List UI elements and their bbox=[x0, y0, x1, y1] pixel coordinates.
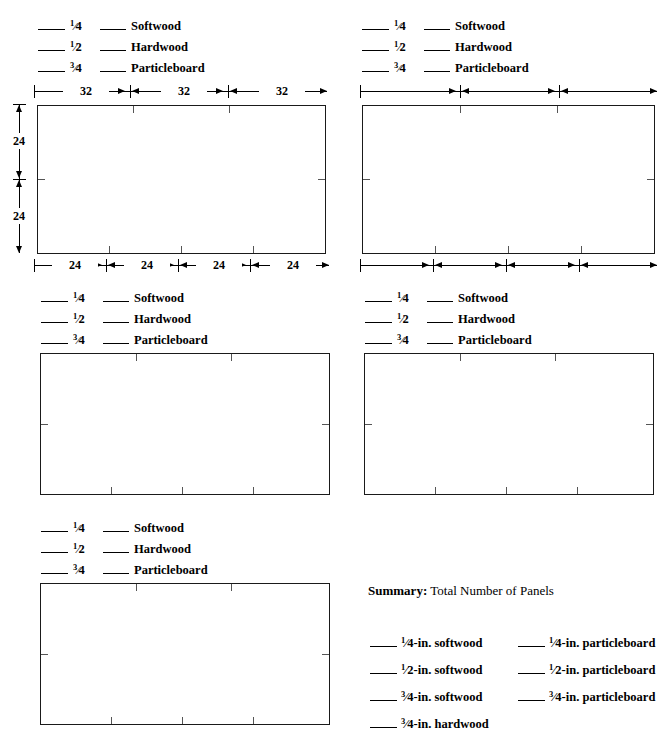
legend-row: 1⁄4 Softwood bbox=[41, 518, 208, 539]
thickness-blank-input[interactable] bbox=[38, 20, 65, 30]
legend-row: 3⁄4 Particleboard bbox=[362, 58, 529, 79]
count-blank-input[interactable] bbox=[370, 664, 397, 674]
dimension-value: 24 bbox=[124, 256, 170, 274]
thickness-blank-input[interactable] bbox=[41, 543, 68, 553]
thickness-blank-input[interactable] bbox=[41, 292, 68, 302]
tick-mark bbox=[581, 246, 582, 253]
tick-mark bbox=[322, 654, 329, 655]
material-blank-input[interactable] bbox=[427, 292, 453, 302]
material-blank-input[interactable] bbox=[427, 313, 453, 323]
dimension-value: 24 bbox=[52, 256, 98, 274]
dimension-value: 32 bbox=[63, 82, 109, 100]
summary-item-label: 1⁄2-in. softwood bbox=[401, 663, 482, 678]
fraction-one-quarter: 1⁄4 bbox=[73, 518, 103, 539]
summary-item-softwood-quarter: 1⁄4-in. softwood bbox=[370, 636, 482, 651]
fraction-one-half: 1⁄2 bbox=[73, 309, 103, 330]
tick-mark bbox=[508, 246, 509, 253]
thickness-blank-input[interactable] bbox=[41, 334, 68, 344]
count-blank-input[interactable] bbox=[370, 691, 397, 701]
material-blank-input[interactable] bbox=[103, 292, 129, 302]
tick-mark bbox=[460, 106, 461, 113]
tick-mark bbox=[136, 584, 137, 591]
count-blank-input[interactable] bbox=[370, 718, 397, 728]
material-blank-input[interactable] bbox=[103, 334, 129, 344]
tick-mark bbox=[555, 354, 556, 361]
fraction-three-quarters: 3⁄4 bbox=[73, 560, 103, 581]
tick-mark bbox=[435, 246, 436, 253]
dimension-value: 24 bbox=[8, 208, 30, 224]
thickness-blank-input[interactable] bbox=[362, 20, 389, 30]
material-blank-input[interactable] bbox=[100, 20, 126, 30]
fraction-one-half: 1⁄2 bbox=[394, 37, 424, 58]
summary-item-softwood-half: 1⁄2-in. softwood bbox=[370, 663, 482, 678]
panel-diagram-1[interactable] bbox=[37, 105, 326, 254]
thickness-blank-input[interactable] bbox=[41, 313, 68, 323]
tick-mark bbox=[41, 424, 48, 425]
summary-title: Summary: Total Number of Panels bbox=[368, 583, 658, 599]
legend-panel-5: 1⁄4 Softwood 1⁄2 Hardwood 3⁄4 Particlebo… bbox=[41, 518, 208, 581]
legend-panel-4: 1⁄4 Softwood 1⁄2 Hardwood 3⁄4 Particlebo… bbox=[365, 288, 532, 351]
tick-mark bbox=[41, 654, 48, 655]
thickness-blank-input[interactable] bbox=[362, 62, 389, 72]
material-blank-input[interactable] bbox=[424, 62, 450, 72]
material-blank-input[interactable] bbox=[103, 522, 129, 532]
dimension-value: 24 bbox=[196, 256, 242, 274]
worksheet-page: 1⁄4 Softwood 1⁄2 Hardwood 3⁄4 Particlebo… bbox=[0, 0, 669, 747]
material-blank-input[interactable] bbox=[103, 313, 129, 323]
panel-diagram-5[interactable] bbox=[40, 583, 330, 725]
summary-item-label: 3⁄4-in. particleboard bbox=[549, 690, 655, 705]
material-label-hardwood: Hardwood bbox=[134, 309, 191, 330]
count-blank-input[interactable] bbox=[518, 664, 545, 674]
summary-item-particleboard-quarter: 1⁄4-in. particleboard bbox=[518, 636, 655, 651]
legend-panel-3: 1⁄4 Softwood 1⁄2 Hardwood 3⁄4 Particlebo… bbox=[41, 288, 208, 351]
tick-mark bbox=[182, 717, 183, 724]
thickness-blank-input[interactable] bbox=[41, 564, 68, 574]
tick-mark bbox=[181, 246, 182, 253]
panel-diagram-2[interactable] bbox=[362, 105, 655, 254]
summary-item-hardwood-threequarter: 3⁄4-in. hardwood bbox=[370, 717, 489, 732]
tick-mark bbox=[365, 424, 372, 425]
material-blank-input[interactable] bbox=[424, 20, 450, 30]
legend-row: 1⁄2 Hardwood bbox=[365, 309, 532, 330]
thickness-blank-input[interactable] bbox=[41, 522, 68, 532]
dimension-value: 24 bbox=[8, 133, 30, 149]
fraction-one-quarter: 1⁄4 bbox=[394, 16, 424, 37]
legend-row: 1⁄2 Hardwood bbox=[38, 37, 205, 58]
dimension-line-bottom-panel-2 bbox=[360, 258, 658, 272]
summary-item-softwood-threequarter: 3⁄4-in. softwood bbox=[370, 690, 482, 705]
thickness-blank-input[interactable] bbox=[365, 292, 392, 302]
count-blank-input[interactable] bbox=[518, 637, 545, 647]
fraction-one-half: 1⁄2 bbox=[397, 309, 427, 330]
thickness-blank-input[interactable] bbox=[365, 334, 392, 344]
tick-mark bbox=[460, 354, 461, 361]
thickness-blank-input[interactable] bbox=[38, 41, 65, 51]
material-blank-input[interactable] bbox=[424, 41, 450, 51]
panel-diagram-3[interactable] bbox=[40, 353, 330, 495]
material-label-particleboard: Particleboard bbox=[134, 560, 208, 581]
material-blank-input[interactable] bbox=[100, 62, 126, 72]
panel-diagram-4[interactable] bbox=[364, 353, 654, 495]
legend-panel-1: 1⁄4 Softwood 1⁄2 Hardwood 3⁄4 Particlebo… bbox=[38, 16, 205, 79]
legend-row: 1⁄2 Hardwood bbox=[41, 309, 208, 330]
fraction-three-quarters: 3⁄4 bbox=[397, 330, 427, 351]
fraction-three-quarters: 3⁄4 bbox=[70, 58, 100, 79]
summary-title-lead: Summary: bbox=[368, 583, 427, 598]
tick-mark bbox=[38, 179, 45, 180]
material-blank-input[interactable] bbox=[427, 334, 453, 344]
thickness-blank-input[interactable] bbox=[365, 313, 392, 323]
tick-mark bbox=[363, 179, 370, 180]
legend-row: 3⁄4 Particleboard bbox=[38, 58, 205, 79]
material-label-particleboard: Particleboard bbox=[455, 58, 529, 79]
thickness-blank-input[interactable] bbox=[362, 41, 389, 51]
summary-item-label: 1⁄4-in. softwood bbox=[401, 636, 482, 651]
material-blank-input[interactable] bbox=[100, 41, 126, 51]
tick-mark bbox=[253, 717, 254, 724]
thickness-blank-input[interactable] bbox=[38, 62, 65, 72]
dimension-value: 32 bbox=[259, 82, 305, 100]
tick-mark bbox=[231, 354, 232, 361]
material-blank-input[interactable] bbox=[103, 543, 129, 553]
legend-panel-2: 1⁄4 Softwood 1⁄2 Hardwood 3⁄4 Particlebo… bbox=[362, 16, 529, 79]
material-blank-input[interactable] bbox=[103, 564, 129, 574]
count-blank-input[interactable] bbox=[370, 637, 397, 647]
count-blank-input[interactable] bbox=[518, 691, 545, 701]
